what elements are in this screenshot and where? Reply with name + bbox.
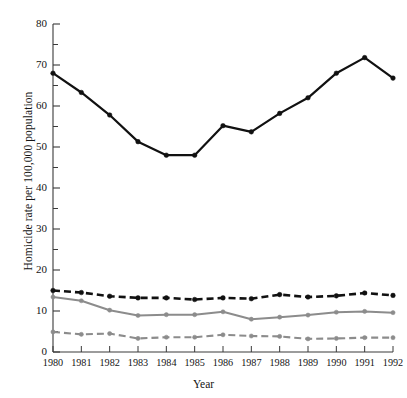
data-point [79,290,84,295]
data-point [136,296,141,301]
data-point [306,313,310,317]
data-point [277,292,282,297]
series-line-series-1-black-solid [53,58,393,156]
data-point [164,313,168,317]
data-point [108,331,112,335]
y-tick-label: 60 [21,99,47,111]
data-point [221,333,225,337]
y-tick-label: 50 [21,140,47,152]
data-point [193,313,197,317]
data-point [278,315,282,319]
y-tick-label: 20 [21,263,47,275]
data-point [79,332,83,336]
data-point [192,153,197,158]
data-point [306,295,311,300]
data-point [334,71,339,76]
data-point [107,294,112,299]
data-point [278,334,282,338]
chart-figure: Homicide rate per 100,000 population Yea… [0,0,407,398]
y-tick-label: 0 [21,345,47,357]
data-point [79,299,83,303]
data-point [51,71,56,76]
y-tick-label: 80 [21,17,47,29]
y-tick-label: 10 [21,304,47,316]
data-point [107,113,112,118]
data-point [363,336,367,340]
data-point [136,139,141,144]
data-point [164,153,169,158]
data-point [306,337,310,341]
data-point [164,335,168,339]
data-point [334,336,338,340]
data-point [249,130,254,135]
data-point [277,111,282,116]
data-point [51,288,56,293]
x-tick-label: 1992 [373,357,407,368]
data-point [136,336,140,340]
data-point [79,90,84,95]
data-point [108,308,112,312]
data-point [391,311,395,315]
data-point [391,293,396,298]
y-tick-label: 70 [21,58,47,70]
data-point [249,296,254,301]
data-point [362,291,367,296]
data-point [249,317,253,321]
data-point [221,296,226,301]
data-point [51,330,55,334]
y-tick-label: 30 [21,222,47,234]
data-point [391,76,396,81]
data-point [193,335,197,339]
data-point [164,296,169,301]
data-point [363,309,367,313]
data-point [221,123,226,128]
data-point [221,310,225,314]
data-point [136,313,140,317]
data-point [334,294,339,299]
data-point [362,55,367,60]
data-point [306,96,311,101]
data-point [51,295,55,299]
data-point [192,297,197,302]
data-point [334,310,338,314]
y-tick-label: 40 [21,181,47,193]
chart-plot-area [0,0,407,398]
data-point [391,336,395,340]
data-point [249,334,253,338]
